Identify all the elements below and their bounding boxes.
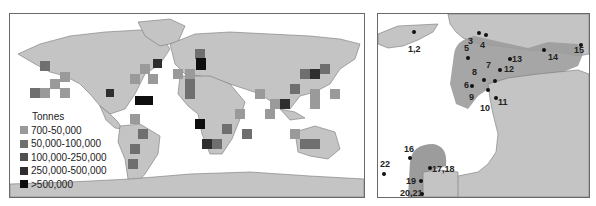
site-label: 12: [504, 64, 514, 74]
site-marker: [486, 88, 490, 92]
legend-item: 50,000-100,000: [20, 137, 107, 151]
site-label: 17,18: [432, 164, 455, 174]
legend-swatch: [20, 167, 28, 175]
site-label: 8: [472, 67, 477, 77]
site-marker: [482, 78, 486, 82]
site-marker: [412, 30, 416, 34]
site-label: 9: [469, 92, 474, 102]
site-label: 19: [406, 176, 416, 186]
site-marker: [477, 31, 481, 35]
site-marker: [466, 56, 470, 60]
site-label: 11: [498, 97, 508, 107]
europe-map-panel: 1,2 3 4 5 6 7 8 9 10 11 12 13 14 15 16 1…: [377, 13, 590, 198]
legend-swatch: [20, 126, 28, 134]
legend-swatch: [20, 153, 28, 161]
site-label: 7: [486, 60, 491, 70]
site-label: 10: [480, 103, 490, 113]
site-label: 22: [380, 159, 390, 169]
site-label: 13: [512, 54, 522, 64]
site-marker: [408, 156, 412, 160]
site-marker: [498, 68, 502, 72]
site-label: 16: [404, 144, 414, 154]
site-label: 15: [574, 45, 584, 55]
site-marker: [419, 179, 423, 183]
legend-swatch: [20, 140, 28, 148]
site-label: 4: [480, 40, 485, 50]
legend-item: >500,000: [20, 178, 107, 192]
site-marker: [484, 33, 488, 37]
legend-item: 700-50,000: [20, 124, 107, 138]
legend-item: 250,000-500,000: [20, 164, 107, 178]
site-marker: [493, 79, 497, 83]
site-marker: [382, 172, 386, 176]
site-label: 1,2: [408, 44, 421, 54]
legend-item: 100,000-250,000: [20, 151, 107, 165]
legend-title: Tonnes: [20, 110, 107, 124]
site-label: 20,21: [400, 188, 423, 198]
site-label: 6: [464, 80, 469, 90]
legend-swatch: [20, 180, 28, 188]
site-marker: [470, 84, 474, 88]
site-marker: [542, 48, 546, 52]
site-label: 14: [548, 52, 558, 62]
site-label: 5: [464, 43, 469, 53]
world-map-panel: Tonnes 700-50,000 50,000-100,000 100,000…: [9, 13, 365, 198]
map-legend: Tonnes 700-50,000 50,000-100,000 100,000…: [20, 110, 107, 191]
